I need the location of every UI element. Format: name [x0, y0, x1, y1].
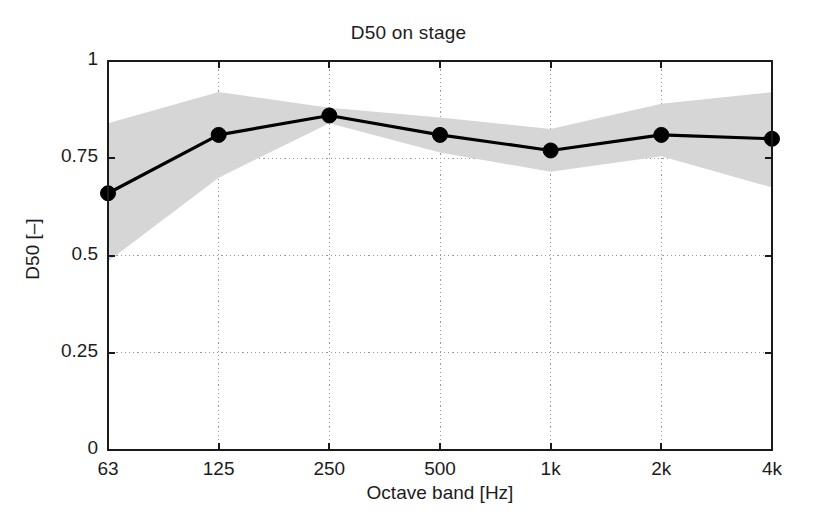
chart-figure: D50 on stage D50 [–] Octave band [Hz] 00…	[0, 0, 817, 519]
x-tick-label: 63	[68, 458, 148, 480]
y-tick-label: 0.75	[18, 145, 98, 167]
x-tick-label: 250	[289, 458, 369, 480]
x-tick-label: 125	[179, 458, 259, 480]
y-tick-label: 0.25	[18, 340, 98, 362]
x-tick-label: 500	[400, 458, 480, 480]
std-deviation-band	[108, 92, 772, 261]
y-tick-label: 0	[18, 437, 98, 459]
y-tick-label: 1	[18, 48, 98, 70]
y-tick-label: 0.5	[18, 243, 98, 265]
x-tick-label: 2k	[621, 458, 701, 480]
x-tick-label: 4k	[732, 458, 812, 480]
plot-canvas	[0, 0, 817, 519]
x-tick-label: 1k	[511, 458, 591, 480]
